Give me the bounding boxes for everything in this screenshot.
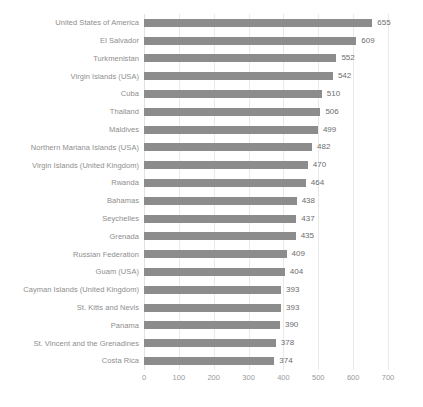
bar-value-label: 499 — [323, 126, 336, 134]
bar-track — [144, 339, 276, 347]
bar-track — [144, 19, 372, 27]
bar-chart: United States of America655El Salvador60… — [0, 0, 423, 407]
bar-row[interactable]: Thailand506 — [0, 103, 423, 121]
category-label: Guam (USA) — [0, 268, 139, 276]
category-label: Grenada — [0, 233, 139, 241]
bar-value-label: 404 — [290, 268, 303, 276]
bar[interactable] — [144, 197, 297, 205]
bar-row[interactable]: Seychelles437 — [0, 210, 423, 228]
bar-value-label: 609 — [361, 37, 374, 45]
bar[interactable] — [144, 126, 318, 134]
bar-row[interactable]: Rwanda464 — [0, 174, 423, 192]
bar-value-label: 409 — [292, 250, 305, 258]
bar-track — [144, 72, 333, 80]
x-axis-tick-label: 600 — [347, 374, 360, 382]
bar-rows: United States of America655El Salvador60… — [0, 14, 423, 370]
bar[interactable] — [144, 304, 281, 312]
x-axis-tick-label: 300 — [242, 374, 255, 382]
x-axis-tick-label: 0 — [142, 374, 146, 382]
bar-value-label: 393 — [286, 304, 299, 312]
bar[interactable] — [144, 250, 287, 258]
bar[interactable] — [144, 357, 274, 365]
bar-row[interactable]: St. Vincent and the Grenadines378 — [0, 334, 423, 352]
bar-value-label: 393 — [286, 286, 299, 294]
bar-row[interactable]: Grenada435 — [0, 228, 423, 246]
bar-row[interactable]: Virgin Islands (USA)542 — [0, 67, 423, 85]
bar-row[interactable]: Northern Mariana Islands (USA)482 — [0, 139, 423, 157]
category-label: Maldives — [0, 126, 139, 134]
bar-track — [144, 321, 280, 329]
bar-track — [144, 108, 320, 116]
bar-track — [144, 357, 274, 365]
bar-track — [144, 161, 308, 169]
category-label: St. Kitts and Nevis — [0, 304, 139, 312]
bar-track — [144, 90, 322, 98]
bar-value-label: 552 — [341, 54, 354, 62]
bar-value-label: 464 — [311, 179, 324, 187]
bar-row[interactable]: Panama390 — [0, 317, 423, 335]
category-label: Thailand — [0, 108, 139, 116]
bar-row[interactable]: El Salvador609 — [0, 32, 423, 50]
bar-value-label: 438 — [302, 197, 315, 205]
bar-row[interactable]: United States of America655 — [0, 14, 423, 32]
bar[interactable] — [144, 54, 336, 62]
x-axis-tick-label: 500 — [312, 374, 325, 382]
bar-track — [144, 37, 356, 45]
bar-row[interactable]: Virgin Islands (United Kingdom)470 — [0, 156, 423, 174]
bar-track — [144, 215, 296, 223]
category-label: Panama — [0, 322, 139, 330]
category-label: Northern Mariana Islands (USA) — [0, 144, 139, 152]
bar[interactable] — [144, 286, 281, 294]
category-label: Russian Federation — [0, 251, 139, 259]
bar[interactable] — [144, 339, 276, 347]
bar-value-label: 655 — [377, 19, 390, 27]
category-label: Virgin Islands (United Kingdom) — [0, 162, 139, 170]
bar-track — [144, 268, 285, 276]
bar[interactable] — [144, 161, 308, 169]
bar-row[interactable]: Russian Federation409 — [0, 245, 423, 263]
bar-row[interactable]: Turkmenistan552 — [0, 50, 423, 68]
bar[interactable] — [144, 72, 333, 80]
bar-track — [144, 232, 296, 240]
bar-row[interactable]: Cuba510 — [0, 85, 423, 103]
bar[interactable] — [144, 90, 322, 98]
category-label: United States of America — [0, 19, 139, 27]
category-label: Costa Rica — [0, 357, 139, 365]
bar-value-label: 482 — [317, 143, 330, 151]
bar-row[interactable]: Maldives499 — [0, 121, 423, 139]
category-label: St. Vincent and the Grenadines — [0, 340, 139, 348]
bar[interactable] — [144, 232, 296, 240]
bar-row[interactable]: Guam (USA)404 — [0, 263, 423, 281]
bar-row[interactable]: St. Kitts and Nevis393 — [0, 299, 423, 317]
bar[interactable] — [144, 215, 296, 223]
bar[interactable] — [144, 143, 312, 151]
bar-value-label: 542 — [338, 72, 351, 80]
bar[interactable] — [144, 19, 372, 27]
bar[interactable] — [144, 321, 280, 329]
category-label: Cayman Islands (United Kingdom) — [0, 286, 139, 294]
bar-track — [144, 54, 336, 62]
bar-track — [144, 250, 287, 258]
bar-row[interactable]: Costa Rica374 — [0, 352, 423, 370]
bar-track — [144, 126, 318, 134]
bar[interactable] — [144, 37, 356, 45]
bar[interactable] — [144, 108, 320, 116]
category-label: Cuba — [0, 90, 139, 98]
bar-value-label: 506 — [325, 108, 338, 116]
category-label: El Salvador — [0, 37, 139, 45]
category-label: Seychelles — [0, 215, 139, 223]
bar-track — [144, 304, 281, 312]
category-label: Bahamas — [0, 197, 139, 205]
x-axis: 0100200300400500600700 — [144, 374, 388, 390]
bar-track — [144, 179, 306, 187]
x-axis-tick-label: 400 — [277, 374, 290, 382]
bar-value-label: 437 — [301, 215, 314, 223]
bar-row[interactable]: Cayman Islands (United Kingdom)393 — [0, 281, 423, 299]
bar-row[interactable]: Bahamas438 — [0, 192, 423, 210]
bar-value-label: 378 — [281, 339, 294, 347]
bar-value-label: 374 — [279, 357, 292, 365]
bar-track — [144, 286, 281, 294]
bar[interactable] — [144, 268, 285, 276]
x-axis-tick-label: 700 — [382, 374, 395, 382]
bar[interactable] — [144, 179, 306, 187]
